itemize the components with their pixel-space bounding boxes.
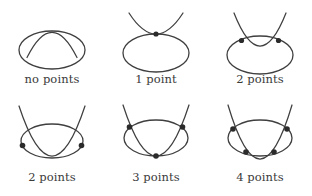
curves-2-points-side xyxy=(19,106,85,158)
intersection-point xyxy=(284,126,290,132)
intersection-point xyxy=(271,149,277,155)
panel-caption: 2 points xyxy=(208,72,312,86)
ellipse-curve xyxy=(227,36,293,74)
panel-2-points-top: 2 points xyxy=(208,0,312,98)
intersection-point xyxy=(180,124,186,130)
curves-2-points-top xyxy=(227,13,293,74)
panel-4-points: 4 points xyxy=(208,98,312,196)
curves-1-point xyxy=(123,13,189,72)
ellipse-curve xyxy=(228,120,292,156)
panel-3-points: 3 points xyxy=(104,98,208,196)
intersection-point xyxy=(127,124,133,130)
ellipse-curve xyxy=(124,120,188,156)
intersection-point xyxy=(276,38,281,43)
panel-1-point: 1 point xyxy=(104,0,208,98)
panel-caption: no points xyxy=(0,72,104,86)
intersection-cases-figure: no points 1 point 2 points xyxy=(0,0,312,196)
intersection-point xyxy=(153,31,158,36)
curves-no-points xyxy=(19,31,85,69)
panel-caption: 4 points xyxy=(208,170,312,184)
panel-caption: 3 points xyxy=(104,170,208,184)
parabola-curve xyxy=(129,13,183,34)
intersection-point xyxy=(153,153,159,159)
ellipse-curve xyxy=(21,124,83,158)
intersection-point xyxy=(243,149,249,155)
parabola-curve xyxy=(123,105,189,156)
intersection-point xyxy=(79,143,85,149)
curves-4-points xyxy=(228,105,292,159)
ellipse-curve xyxy=(19,31,85,69)
panel-no-points: no points xyxy=(0,0,104,98)
intersection-point xyxy=(230,126,236,132)
intersection-point xyxy=(239,38,244,43)
curves-3-points xyxy=(123,105,189,159)
intersection-point xyxy=(20,143,26,149)
panel-caption: 2 points xyxy=(0,170,104,184)
panel-2-points-side: 2 points xyxy=(0,98,104,196)
parabola-curve xyxy=(27,32,77,57)
parabola-curve xyxy=(19,106,85,156)
panel-caption: 1 point xyxy=(104,72,208,86)
ellipse-curve xyxy=(123,34,189,72)
